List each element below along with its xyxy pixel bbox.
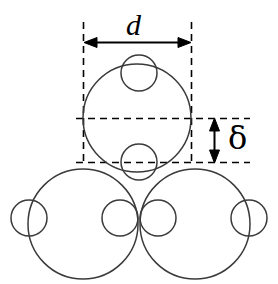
top-group-upper-small-circle [121, 55, 157, 91]
diameter-arrowhead-left [84, 38, 97, 48]
top-circle-group [83, 55, 191, 180]
offset-arrowhead-top [210, 118, 220, 131]
bottom-left-large-circle [28, 169, 138, 279]
packing-diagram-figure: d δ [0, 0, 278, 284]
bottom-right-large-circle [140, 169, 250, 279]
diameter-arrowhead-right [178, 38, 191, 48]
diameter-label: d [126, 10, 141, 40]
bottom-left-circle-group [11, 169, 138, 279]
bottom-right-inner-small-circle [140, 200, 176, 236]
offset-dimension [210, 118, 220, 163]
offset-arrowhead-bottom [210, 150, 220, 163]
bottom-right-circle-group [140, 169, 267, 279]
bottom-left-inner-small-circle [102, 200, 138, 236]
offset-label: δ [228, 122, 247, 154]
